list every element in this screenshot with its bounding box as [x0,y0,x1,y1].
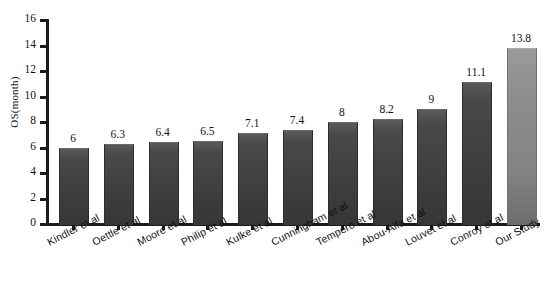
bar-9 [462,82,492,225]
bar-value-3: 6.5 [187,125,227,137]
bar-value-2: 6.4 [143,126,183,138]
y-tick-label-10: 10 [10,89,36,101]
y-tick-label-4: 4 [10,165,36,177]
y-tick-6 [40,147,47,150]
bar-value-9: 11.1 [456,66,496,78]
y-tick-16 [40,19,47,22]
y-tick-label-12: 12 [10,63,36,75]
bar-value-1: 6.3 [98,128,138,140]
y-tick-8 [40,121,47,124]
y-tick-label-0: 0 [10,216,36,228]
y-tick-label-6: 6 [10,140,36,152]
bar-value-8: 9 [411,93,451,105]
y-tick-4 [40,172,47,175]
bar-value-10: 13.8 [501,32,541,44]
y-tick-label-8: 8 [10,114,36,126]
bar-chart: OS(month) 0246810121416 66.36.46.57.17.4… [0,0,552,290]
bar-0 [59,148,89,226]
bar-10 [507,48,537,225]
y-tick-label-14: 14 [10,38,36,50]
y-tick-14 [40,45,47,48]
bar-value-6: 8 [322,106,362,118]
bar-value-4: 7.1 [232,117,272,129]
bar-7 [373,119,403,225]
y-tick-2 [40,198,47,201]
bar-value-7: 8.2 [367,103,407,115]
y-tick-10 [40,96,47,99]
bar-3 [193,141,223,225]
y-tick-label-16: 16 [10,12,36,24]
y-tick-label-2: 2 [10,191,36,203]
bar-5 [283,130,313,225]
bar-1 [104,144,134,225]
bar-value-5: 7.4 [277,114,317,126]
bar-4 [238,133,268,225]
bar-2 [149,142,179,225]
bar-value-0: 6 [53,132,93,144]
y-tick-12 [40,70,47,73]
